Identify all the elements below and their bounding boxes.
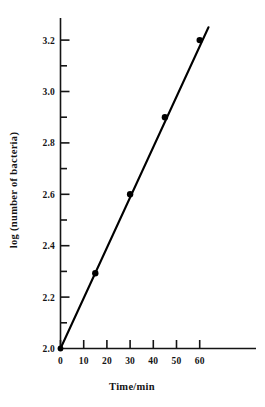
x-tick-label-50: 50: [172, 356, 182, 366]
y-tick-label-3.0: 3.0: [43, 87, 56, 97]
axis-lines: [61, 18, 257, 349]
x-tick-label-30: 30: [125, 356, 135, 366]
data-point-60: [197, 37, 203, 43]
series-line-segment: [61, 27, 209, 348]
y-tick-label-2.8: 2.8: [43, 138, 56, 148]
y-tick-label-2.4: 2.4: [43, 241, 56, 251]
x-tick-labels: 0 10 20 30 40 50 60: [58, 356, 205, 366]
data-point-45: [162, 114, 168, 120]
x-tick-label-60: 60: [195, 356, 205, 366]
data-series-line: [61, 27, 209, 348]
chart-figure: 3.2 3.0 2.8 2.6 2.4 2.2 2.0 0 10 20 30 4…: [0, 0, 265, 407]
x-axis-title: Time/min: [109, 381, 155, 392]
x-tick-label-10: 10: [79, 356, 89, 366]
chart-plot-area: 3.2 3.0 2.8 2.6 2.4 2.2 2.0 0 10 20 30 4…: [0, 0, 265, 407]
data-point-markers: [58, 37, 203, 352]
x-tick-label-0: 0: [58, 356, 63, 366]
y-tick-label-3.2: 3.2: [43, 36, 56, 46]
x-axis-ticks: [61, 340, 200, 349]
y-tick-label-2.0: 2.0: [43, 344, 56, 354]
y-tick-label-2.6: 2.6: [43, 190, 56, 200]
x-tick-label-20: 20: [102, 356, 112, 366]
x-tick-label-40: 40: [148, 356, 158, 366]
y-tick-label-2.2: 2.2: [43, 293, 56, 303]
y-axis-ticks: [61, 40, 70, 323]
data-point-15: [92, 270, 98, 276]
y-axis-title: log (number of bacteria): [8, 132, 20, 249]
y-tick-labels: 3.2 3.0 2.8 2.6 2.4 2.2 2.0: [43, 36, 56, 354]
data-point-0: [58, 346, 64, 352]
data-point-30: [127, 191, 133, 197]
